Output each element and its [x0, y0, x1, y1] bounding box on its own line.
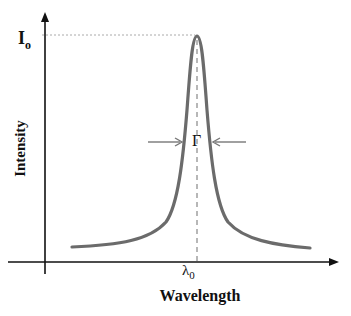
x-axis-label: Wavelength: [140, 287, 260, 305]
center-wavelength-label: λ0: [182, 262, 195, 281]
y-axis-label: Intensity: [12, 109, 29, 189]
lorentzian-curve: [72, 36, 310, 248]
peak-label-text: I: [18, 28, 25, 48]
chart-canvas: [0, 0, 351, 316]
x-axis-arrow-icon: [329, 258, 339, 266]
peak-label-sub: o: [25, 38, 31, 52]
peak-intensity-label: Io: [18, 28, 31, 53]
y-axis-arrow-icon: [41, 12, 49, 22]
center-label-sub: 0: [189, 269, 195, 281]
width-label: Γ: [192, 132, 201, 150]
